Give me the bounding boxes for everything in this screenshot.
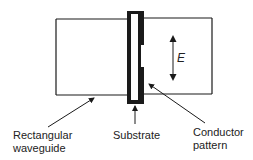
e-field-label: E [177,51,185,65]
rectangular-waveguide-label-line1: Rectangular [13,129,72,142]
waveguide-left-section [56,19,127,95]
substrate-label: Substrate [113,129,160,142]
conductor-pattern-label-line2: pattern [193,139,244,152]
conductor-pointer-arrow [149,84,205,123]
conductor-pattern-label: Conductor pattern [193,126,244,152]
rectangular-waveguide-label: Rectangular waveguide [13,129,72,155]
rectangular-waveguide-label-line2: waveguide [13,142,72,155]
substrate [127,11,141,104]
waveguide-pointer-arrow [48,98,94,127]
e-field-arrow-icon [170,35,177,81]
conductor-pattern-label-line1: Conductor [193,126,244,139]
